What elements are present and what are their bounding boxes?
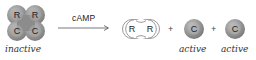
catalytic-c-1: C bbox=[189, 24, 199, 34]
tetramer-shape-icon bbox=[4, 3, 48, 43]
catalytic-c-2: C bbox=[230, 24, 240, 34]
dimer-r-2: R bbox=[145, 24, 155, 34]
catalytic-subunit-1: C bbox=[183, 18, 205, 40]
inactive-label: inactive bbox=[5, 44, 41, 54]
subunit-c-1: C bbox=[12, 26, 22, 36]
subunit-r-2: R bbox=[30, 10, 40, 20]
dimer-r-1: R bbox=[127, 24, 137, 34]
camp-label: cAMP bbox=[72, 13, 95, 23]
subunit-r-1: R bbox=[12, 10, 22, 20]
active-label-2: active bbox=[221, 44, 248, 54]
reaction-arrow-icon bbox=[58, 24, 112, 32]
subunit-c-2: C bbox=[30, 26, 40, 36]
regulatory-dimer: R R bbox=[120, 18, 162, 40]
catalytic-subunit-2: C bbox=[224, 18, 246, 40]
active-label-1: active bbox=[179, 44, 206, 54]
inactive-tetramer: R R C C bbox=[4, 3, 48, 43]
plus-sign-1: + bbox=[168, 24, 173, 34]
plus-sign-2: + bbox=[211, 24, 216, 34]
